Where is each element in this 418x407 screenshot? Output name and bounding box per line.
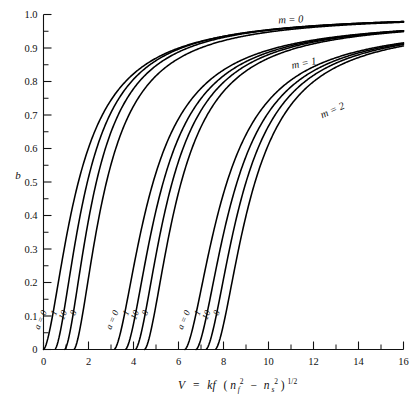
mode-curve — [65, 22, 404, 350]
y-tick-label: 0.8 — [24, 76, 37, 87]
xtitle-V: V — [178, 379, 187, 391]
xtitle-minus: − — [250, 379, 257, 391]
mode-curve — [136, 31, 403, 349]
curve-label-a-0: a = 0 — [175, 308, 192, 330]
y-tick-label: 0.4 — [24, 210, 38, 221]
xtitle-n2-sub: s — [271, 385, 274, 394]
curve-label-a-10: 10 — [200, 308, 213, 321]
y-tick-label: 0 — [32, 344, 37, 355]
x-tick-label: 6 — [176, 356, 181, 367]
xtitle-n1: n — [230, 379, 236, 391]
mode-curve — [74, 22, 403, 349]
xtitle-close-paren: ) — [281, 379, 285, 392]
mode-label-m2: m = 2 — [319, 100, 347, 121]
x-axis-title: V = kf ( n f 2 − n s 2 ) 1/2 — [178, 374, 297, 394]
curve-label-a-inf: 8 — [139, 308, 150, 317]
axis-spine — [44, 15, 404, 350]
chart-figure: 00.10.20.30.40.50.60.70.80.91.0024681012… — [0, 0, 418, 407]
mode-label-m0: m = 0 — [278, 13, 304, 25]
xtitle-n2: n — [264, 379, 270, 391]
y-tick-label: 0.2 — [24, 277, 37, 288]
y-tick-label: 0.9 — [24, 43, 37, 54]
y-axis-label: b — [15, 169, 21, 181]
xtitle-n2-sup: 2 — [274, 377, 278, 386]
y-tick-label: 0.6 — [24, 143, 37, 154]
x-tick-label: 14 — [353, 356, 364, 367]
x-tick-label: 16 — [398, 356, 409, 367]
mode-curve — [126, 31, 404, 349]
mode-curve — [115, 31, 404, 350]
x-tick-label: 10 — [263, 356, 274, 367]
mode-label-m1: m = 1 — [290, 55, 317, 71]
chart-curves — [44, 22, 404, 350]
x-tick-label: 2 — [86, 356, 91, 367]
y-tick-label: 1.0 — [24, 9, 37, 20]
mode-curve — [44, 22, 404, 350]
xtitle-exponent: 1/2 — [288, 377, 298, 386]
x-tick-label: 4 — [131, 356, 137, 367]
x-tick-label: 0 — [41, 356, 46, 367]
y-tick-label: 0.5 — [24, 177, 37, 188]
mode-curve — [216, 46, 404, 349]
y-tick-label: 0.7 — [24, 110, 37, 121]
mode-curve — [145, 32, 404, 350]
chart-axes — [44, 15, 404, 350]
svg-text:V = kf: V = kf ( n f 2 − n s 2 ) 1/2 — [178, 374, 297, 394]
chart-ticks — [44, 15, 404, 350]
xtitle-kf: kf — [207, 379, 217, 392]
y-tick-label: 0.3 — [24, 244, 37, 255]
xtitle-eq: = — [193, 379, 200, 391]
curve-label-a-10: 10 — [128, 308, 141, 321]
curve-label-a-10: 10 — [56, 308, 69, 321]
xtitle-open-paren: ( — [223, 379, 227, 392]
curve-label-a-inf: 8 — [211, 308, 222, 317]
xtitle-n1-sub: f — [238, 385, 241, 394]
curve-label-a-0: a = 0 — [104, 308, 121, 330]
chart-svg: 00.10.20.30.40.50.60.70.80.91.0024681012… — [0, 0, 418, 407]
x-tick-label: 12 — [308, 356, 319, 367]
xtitle-n1-sup: 2 — [240, 377, 244, 386]
x-tick-label: 8 — [221, 356, 226, 367]
